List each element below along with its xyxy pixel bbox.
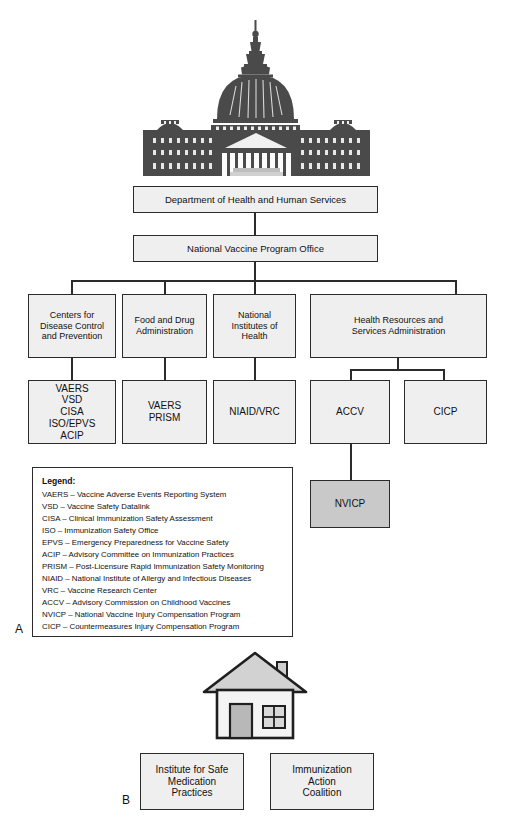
node-cdc-label: Centers forDisease Controland Prevention [37,310,107,342]
node-ismp[interactable]: Institute for SafeMedicationPractices [140,753,244,810]
node-hrsa-label: Health Resources andServices Administrat… [349,315,449,336]
node-nih-programs[interactable]: NIAID/VRC [213,380,296,444]
legend-entry-vaers: VAERS – Vaccine Adverse Events Reporting… [42,489,283,501]
node-iac-label: ImmunizationActionCoalition [289,764,354,799]
node-iac[interactable]: ImmunizationActionCoalition [270,753,374,810]
legend: Legend: VAERS – Vaccine Adverse Events R… [32,467,293,637]
node-nvicp-label: NVICP [332,498,369,510]
legend-entry-acip: ACIP – Advisory Committee on Immunizatio… [42,549,283,561]
house-icon [200,648,310,746]
node-hhs-label: Department of Health and Human Services [162,194,349,205]
legend-entry-prism: PRISM – Post-Licensure Rapid Immunizatio… [42,561,283,573]
node-cicp[interactable]: CICP [404,380,487,444]
connector-bus-to-fda [164,280,166,294]
connector-nih-to-programs [254,358,256,380]
us-capitol-building-icon [133,18,380,178]
connector-bus-to-accv [350,369,352,380]
node-fda-programs-label: VAERSPRISM [145,400,184,424]
node-accv-label: ACCV [333,406,367,418]
node-nih-programs-label: NIAID/VRC [226,406,283,418]
legend-entry-iso: ISO – Immunization Safety Office [42,525,283,537]
panel-a-label: A [15,622,23,636]
legend-title: Legend: [42,476,283,486]
node-fda[interactable]: Food and DrugAdministration [122,294,207,358]
node-hhs[interactable]: Department of Health and Human Services [133,186,378,213]
node-cdc-programs[interactable]: VAERSVSDCISAISO/EPVSACIP [28,380,116,444]
legend-entry-niaid: NIAID – National Institute of Allergy an… [42,573,283,585]
legend-entry-vrc: VRC – Vaccine Research Center [42,585,283,597]
node-fda-programs[interactable]: VAERSPRISM [122,380,207,444]
connector-bus-to-cicp [443,369,445,380]
node-fda-label: Food and DrugAdministration [131,315,197,336]
connector-cdc-to-programs [71,358,73,380]
connector-bus-to-cdc [71,280,73,294]
node-nih-label: NationalInstitutes ofHealth [228,310,280,342]
legend-entry-nvicp: NVICP – National Vaccine Injury Compensa… [42,609,283,621]
node-cdc-programs-label: VAERSVSDCISAISO/EPVSACIP [46,383,99,442]
legend-entry-cicp: CICP – Countermeasures Injury Compensati… [42,621,283,633]
node-nvicp[interactable]: NVICP [310,480,390,528]
legend-entry-accv: ACCV – Advisory Commission on Childhood … [42,597,283,609]
node-nvpo-label: National Vaccine Program Office [184,243,327,254]
connector-tier3-bus [71,280,456,282]
node-accv[interactable]: ACCV [310,380,390,444]
node-ismp-label: Institute for SafeMedicationPractices [153,764,232,799]
legend-entry-cisa: CISA – Clinical Immunization Safety Asse… [42,513,283,525]
legend-entry-epvs: EPVS – Emergency Preparedness for Vaccin… [42,537,283,549]
node-cicp-label: CICP [431,406,461,418]
legend-entry-vsd: VSD – Vaccine Safety Datalink [42,501,283,513]
node-nvpo[interactable]: National Vaccine Program Office [133,235,378,262]
connector-hrsa-bus [350,369,444,371]
node-cdc[interactable]: Centers forDisease Controland Prevention [28,294,116,358]
figure-canvas: Department of Health and Human Services … [0,0,506,825]
panel-b-label: B [122,793,130,807]
connector-fda-to-programs [164,358,166,380]
node-hrsa[interactable]: Health Resources andServices Administrat… [310,294,487,358]
connector-accv-to-nvicp [350,444,352,480]
connector-nvpo-drop [254,262,256,281]
connector-hhs-to-nvpo [254,213,256,235]
node-nih[interactable]: NationalInstitutes ofHealth [213,294,296,358]
connector-bus-to-hrsa [455,280,457,294]
connector-bus-to-nih [254,280,256,294]
